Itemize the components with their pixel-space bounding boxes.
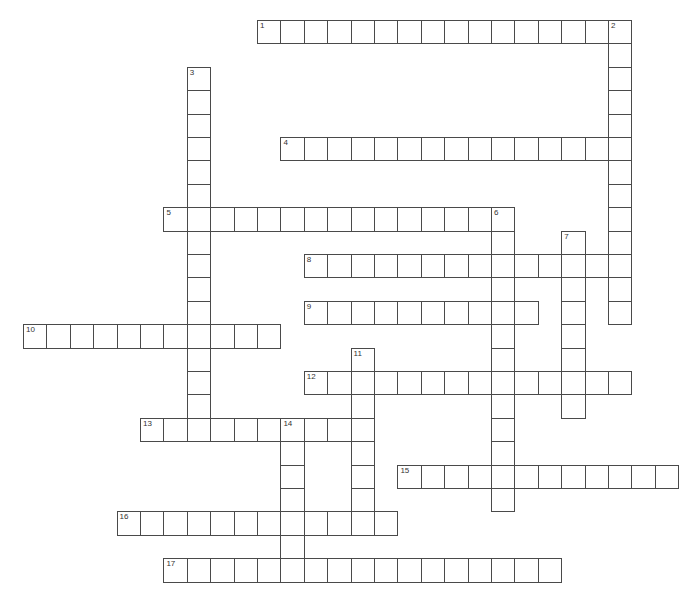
crossword-cell[interactable]: 8	[304, 254, 328, 278]
crossword-cell[interactable]	[117, 324, 141, 348]
crossword-cell[interactable]	[304, 418, 328, 442]
crossword-cell[interactable]	[257, 558, 281, 582]
crossword-cell[interactable]	[514, 254, 538, 278]
crossword-cell[interactable]: 3	[187, 67, 211, 91]
crossword-cell[interactable]	[93, 324, 117, 348]
crossword-cell[interactable]	[397, 301, 421, 325]
crossword-cell[interactable]	[187, 348, 211, 372]
crossword-cell[interactable]	[187, 371, 211, 395]
crossword-cell[interactable]	[491, 231, 515, 255]
crossword-cell[interactable]	[561, 371, 585, 395]
crossword-cell[interactable]	[421, 20, 445, 44]
crossword-cell[interactable]	[608, 43, 632, 67]
crossword-cell[interactable]	[468, 254, 492, 278]
crossword-cell[interactable]	[351, 558, 375, 582]
crossword-cell[interactable]	[163, 511, 187, 535]
crossword-cell[interactable]: 9	[304, 301, 328, 325]
crossword-cell[interactable]: 5	[163, 207, 187, 231]
crossword-cell[interactable]	[491, 301, 515, 325]
crossword-cell[interactable]	[421, 137, 445, 161]
crossword-cell[interactable]	[421, 301, 445, 325]
crossword-cell[interactable]: 1	[257, 20, 281, 44]
crossword-cell[interactable]	[70, 324, 94, 348]
crossword-cell[interactable]	[491, 441, 515, 465]
crossword-cell[interactable]	[351, 20, 375, 44]
crossword-cell[interactable]	[187, 254, 211, 278]
crossword-cell[interactable]	[280, 465, 304, 489]
crossword-cell[interactable]	[491, 348, 515, 372]
crossword-cell[interactable]	[187, 114, 211, 138]
crossword-cell[interactable]	[444, 301, 468, 325]
crossword-cell[interactable]	[280, 488, 304, 512]
crossword-cell[interactable]: 13	[140, 418, 164, 442]
crossword-cell[interactable]	[210, 324, 234, 348]
crossword-cell[interactable]	[397, 254, 421, 278]
crossword-cell[interactable]	[608, 231, 632, 255]
crossword-cell[interactable]	[374, 20, 398, 44]
crossword-cell[interactable]	[585, 254, 609, 278]
crossword-cell[interactable]	[234, 418, 258, 442]
crossword-cell[interactable]	[280, 441, 304, 465]
crossword-cell[interactable]	[351, 371, 375, 395]
crossword-cell[interactable]	[374, 371, 398, 395]
crossword-cell[interactable]: 11	[351, 348, 375, 372]
crossword-cell[interactable]	[397, 137, 421, 161]
crossword-cell[interactable]	[468, 465, 492, 489]
crossword-cell[interactable]	[608, 207, 632, 231]
crossword-cell[interactable]	[491, 418, 515, 442]
crossword-cell[interactable]	[561, 324, 585, 348]
crossword-cell[interactable]	[655, 465, 679, 489]
crossword-cell[interactable]	[514, 465, 538, 489]
crossword-cell[interactable]	[491, 558, 515, 582]
crossword-cell[interactable]	[514, 137, 538, 161]
crossword-cell[interactable]	[351, 254, 375, 278]
crossword-cell[interactable]	[280, 558, 304, 582]
crossword-cell[interactable]	[257, 418, 281, 442]
crossword-cell[interactable]	[187, 394, 211, 418]
crossword-cell[interactable]	[514, 371, 538, 395]
crossword-cell[interactable]	[187, 418, 211, 442]
crossword-cell[interactable]	[538, 558, 562, 582]
crossword-cell[interactable]	[538, 254, 562, 278]
crossword-cell[interactable]	[561, 301, 585, 325]
crossword-cell[interactable]	[444, 207, 468, 231]
crossword-cell[interactable]	[187, 511, 211, 535]
crossword-cell[interactable]	[304, 511, 328, 535]
crossword-cell[interactable]	[538, 465, 562, 489]
crossword-cell[interactable]: 2	[608, 20, 632, 44]
crossword-cell[interactable]	[468, 20, 492, 44]
crossword-cell[interactable]	[187, 231, 211, 255]
crossword-cell[interactable]	[374, 511, 398, 535]
crossword-cell[interactable]	[187, 90, 211, 114]
crossword-cell[interactable]	[491, 465, 515, 489]
crossword-cell[interactable]	[491, 254, 515, 278]
crossword-cell[interactable]	[374, 254, 398, 278]
crossword-cell[interactable]	[280, 20, 304, 44]
crossword-cell[interactable]	[561, 137, 585, 161]
crossword-cell[interactable]	[491, 277, 515, 301]
crossword-cell[interactable]	[444, 465, 468, 489]
crossword-cell[interactable]	[351, 418, 375, 442]
crossword-cell[interactable]	[608, 137, 632, 161]
crossword-cell[interactable]	[374, 207, 398, 231]
crossword-cell[interactable]	[608, 254, 632, 278]
crossword-cell[interactable]: 15	[397, 465, 421, 489]
crossword-cell[interactable]	[491, 488, 515, 512]
crossword-cell[interactable]	[561, 348, 585, 372]
crossword-cell[interactable]	[491, 371, 515, 395]
crossword-cell[interactable]	[631, 465, 655, 489]
crossword-cell[interactable]	[421, 207, 445, 231]
crossword-cell[interactable]	[304, 20, 328, 44]
crossword-cell[interactable]	[304, 207, 328, 231]
crossword-cell[interactable]	[397, 558, 421, 582]
crossword-cell[interactable]	[351, 301, 375, 325]
crossword-cell[interactable]: 7	[561, 231, 585, 255]
crossword-cell[interactable]	[491, 20, 515, 44]
crossword-cell[interactable]	[280, 511, 304, 535]
crossword-cell[interactable]	[304, 137, 328, 161]
crossword-cell[interactable]	[46, 324, 70, 348]
crossword-cell[interactable]	[608, 184, 632, 208]
crossword-cell[interactable]	[187, 558, 211, 582]
crossword-cell[interactable]	[163, 324, 187, 348]
crossword-cell[interactable]	[444, 254, 468, 278]
